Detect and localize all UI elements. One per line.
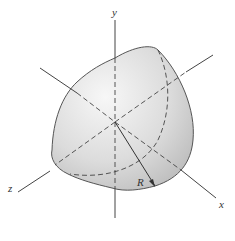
axis-upper-left [40, 68, 77, 93]
axis-upper-right [186, 55, 213, 72]
y-axis-label: y [111, 6, 117, 18]
z-axis [18, 171, 50, 192]
z-axis-label: z [7, 182, 13, 194]
diagram-canvas: y x z R [0, 0, 235, 241]
sphere-diagram: y x z R [0, 0, 235, 241]
radius-label: R [136, 176, 144, 188]
x-axis-label: x [218, 198, 224, 210]
x-axis [181, 170, 216, 198]
solid-body [52, 47, 194, 190]
